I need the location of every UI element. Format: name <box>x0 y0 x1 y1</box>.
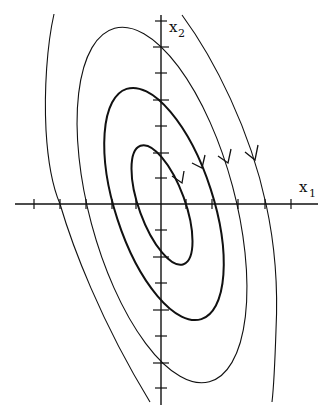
svg-text:x: x <box>299 178 308 196</box>
svg-text:1: 1 <box>309 187 316 200</box>
outer-ellipse <box>44 9 280 400</box>
phase-portrait: x 2 x 1 <box>0 0 330 416</box>
arrow-icon <box>218 149 231 163</box>
x1-axis-label: x 1 <box>299 178 316 200</box>
outermost-trajectory-right <box>182 15 277 402</box>
flow-arrows <box>172 145 258 183</box>
x2-axis-label: x 2 <box>169 18 185 40</box>
svg-text:x: x <box>169 18 178 36</box>
outermost-trajectory-left <box>45 14 150 402</box>
svg-text:2: 2 <box>178 27 185 40</box>
inner-ellipse <box>119 138 205 272</box>
